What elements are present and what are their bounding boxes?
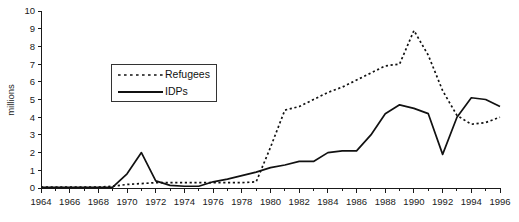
y-tick-label: 2 <box>30 147 35 158</box>
y-tick-label: 10 <box>24 5 35 16</box>
x-tick-label: 1996 <box>489 196 510 207</box>
x-tick-label: 1980 <box>260 196 281 207</box>
y-tick-label: 4 <box>30 112 35 123</box>
y-tick-label: 6 <box>30 76 35 87</box>
line-chart: 012345678910 196419661968197019721974197… <box>0 0 519 222</box>
y-tick-label: 0 <box>30 182 35 193</box>
x-tick-label: 1972 <box>145 196 166 207</box>
legend-label: Refugees <box>165 68 210 80</box>
x-tick-label: 1978 <box>231 196 252 207</box>
plot-background <box>41 11 500 188</box>
x-tick-label: 1968 <box>88 196 109 207</box>
x-tick-label: 1964 <box>30 196 51 207</box>
x-tick-label: 1992 <box>432 196 453 207</box>
x-tick-label: 1990 <box>403 196 424 207</box>
x-tick-label: 1970 <box>116 196 137 207</box>
x-tick-label: 1984 <box>317 196 338 207</box>
x-tick-label: 1986 <box>346 196 367 207</box>
y-tick-label: 1 <box>30 165 35 176</box>
y-tick-label: 7 <box>30 59 35 70</box>
x-tick-label: 1976 <box>203 196 224 207</box>
x-tick-label: 1982 <box>289 196 310 207</box>
y-tick-label: 5 <box>30 94 35 105</box>
x-tick-label: 1974 <box>174 196 195 207</box>
x-tick-label: 1988 <box>375 196 396 207</box>
chart-legend: RefugeesIDPs <box>111 64 216 101</box>
x-tick-label: 1966 <box>59 196 80 207</box>
x-tick-label: 1994 <box>461 196 482 207</box>
y-tick-label: 9 <box>30 23 35 34</box>
legend-label: IDPs <box>165 85 188 97</box>
chart-container: 012345678910 196419661968197019721974197… <box>0 0 519 222</box>
y-axis: 012345678910 <box>24 5 41 193</box>
y-tick-label: 8 <box>30 41 35 52</box>
x-axis: 1964196619681970197219741976197819801982… <box>30 188 510 207</box>
y-axis-title: millions <box>5 84 16 116</box>
y-tick-label: 3 <box>30 129 35 140</box>
